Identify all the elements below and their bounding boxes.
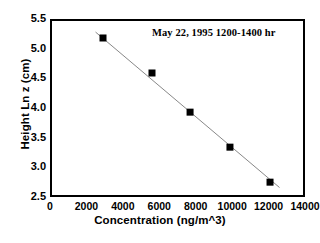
x-tick-label: 14000 (290, 200, 319, 212)
x-tick-label: 6000 (148, 200, 171, 212)
x-tick-label: 2000 (75, 200, 98, 212)
data-point-marker (226, 144, 233, 151)
y-tick-label: 5.5 (16, 13, 46, 24)
x-axis-title: Concentration (ng/m^3) (0, 214, 320, 226)
x-tick-label: 0 (47, 200, 53, 212)
chart-annotation: May 22, 1995 1200-1400 hr (152, 27, 276, 38)
x-tick-label: 4000 (111, 200, 134, 212)
data-point-marker (100, 34, 107, 41)
data-point-marker (187, 109, 194, 116)
y-axis-title: Height Ln z (cm) (19, 34, 31, 174)
chart-figure: 2.53.03.54.04.55.05.5 020004000600080001… (0, 0, 320, 243)
x-tick-label: 12000 (254, 200, 283, 212)
x-axis-ticks: 02000400060008000100001200014000 (0, 200, 320, 214)
x-tick-label: 10000 (218, 200, 247, 212)
chart-data-layer (50, 19, 305, 197)
data-point-marker (149, 69, 156, 76)
data-point-marker (267, 179, 274, 186)
x-tick-label: 8000 (184, 200, 207, 212)
